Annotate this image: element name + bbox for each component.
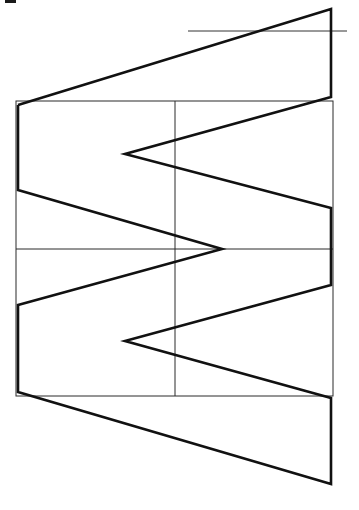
corner-mark xyxy=(5,0,16,3)
diagram-canvas xyxy=(0,0,359,510)
